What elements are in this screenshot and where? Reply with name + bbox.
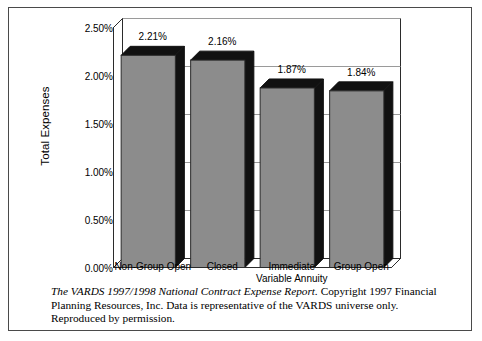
- bar-value-label: 2.21%: [139, 31, 167, 42]
- x-axis-tick-label: ImmediateVariable Annuity: [256, 261, 328, 285]
- figure-frame: Total Expenses 0.00%0.50%1.00%1.50%2.00%…: [8, 7, 472, 331]
- x-axis-tick-label-line: Group Open: [334, 261, 389, 273]
- x-axis-tick-label-line: Variable Annuity: [256, 273, 328, 285]
- bar-value-label: 2.16%: [208, 36, 236, 47]
- bar-top-face: [260, 79, 323, 88]
- x-axis-tick-label-line: Immediate: [256, 261, 328, 273]
- bar-value-label: 1.84%: [347, 67, 375, 78]
- caption-source-title: The VARDS 1997/1998 National Contract Ex…: [51, 285, 318, 297]
- x-axis-tick-label: Closed: [207, 261, 238, 273]
- chart-area: Total Expenses 0.00%0.50%1.00%1.50%2.00%…: [9, 8, 473, 290]
- figure-caption: The VARDS 1997/1998 National Contract Ex…: [51, 285, 451, 326]
- bar-front-face: [260, 88, 314, 268]
- bar-side-face: [384, 82, 393, 268]
- plot-box: 2.21%2.16%1.87%1.84%: [113, 18, 401, 268]
- y-axis-tick-label: 0.50%: [67, 214, 113, 225]
- y-axis-title: Total Expenses: [39, 51, 51, 201]
- bar-front-face: [330, 91, 384, 268]
- bar-front-face: [191, 60, 245, 267]
- y-axis-tick-label: 1.50%: [67, 118, 113, 129]
- x-axis-tick-label: Non-Group Open: [114, 261, 191, 273]
- x-axis-tick-label: Group Open: [334, 261, 389, 273]
- y-axis-tick-labels: 0.00%0.50%1.00%1.50%2.00%2.50%: [67, 8, 113, 290]
- bar-side-face: [245, 51, 254, 267]
- bar-value-label: 1.87%: [278, 64, 306, 75]
- plot-geometry: [113, 18, 401, 268]
- x-axis-tick-label-line: Non-Group Open: [114, 261, 191, 273]
- y-axis-tick-label: 2.00%: [67, 70, 113, 81]
- bar-top-face: [121, 46, 184, 55]
- bar-top-face: [191, 51, 254, 60]
- y-axis-tick-label: 1.00%: [67, 166, 113, 177]
- bar-front-face: [121, 55, 175, 267]
- bar-side-face: [175, 46, 184, 267]
- bar-side-face: [314, 79, 323, 268]
- y-axis-tick-label: 2.50%: [67, 22, 113, 33]
- y-axis-tick-label: 0.00%: [67, 262, 113, 273]
- x-axis-tick-label-line: Closed: [207, 261, 238, 273]
- bar-top-face: [330, 82, 393, 91]
